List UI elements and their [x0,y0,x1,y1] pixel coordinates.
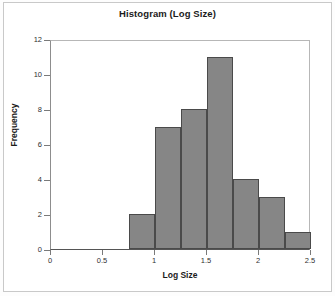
y-axis-title: Frequency [9,85,19,165]
x-axis-tick [310,250,311,255]
histogram-bar [207,57,233,250]
y-axis-tick-label: 2 [16,210,42,219]
y-axis-tick-label: 6 [16,140,42,149]
x-axis-tick-label: 0.5 [87,256,117,265]
chart-title: Histogram (Log Size) [0,8,335,19]
y-axis-tick [44,110,50,111]
x-axis-tick [154,250,155,255]
y-axis-tick [44,215,50,216]
histogram-bar [259,197,285,250]
y-axis-tick-label: 10 [16,70,42,79]
y-axis-tick-label: 4 [16,175,42,184]
bars-layer [51,41,309,249]
histogram-bar [129,214,155,249]
y-axis-tick-label: 0 [16,245,42,254]
x-axis-tick-label: 0 [35,256,65,265]
x-axis-title: Log Size [50,270,310,280]
histogram-bar [233,179,259,249]
histogram-bar [181,109,207,249]
x-axis-tick-label: 1 [139,256,169,265]
x-axis-tick-label: 1.5 [191,256,221,265]
histogram-bar [155,127,181,250]
y-axis-tick [44,75,50,76]
y-axis-tick [44,145,50,146]
plot-area [50,40,310,250]
x-axis-tick-label: 2.5 [295,256,325,265]
x-axis-tick [50,250,51,255]
y-axis-tick-label: 12 [16,35,42,44]
x-axis-tick-label: 2 [243,256,273,265]
y-axis-tick-label: 8 [16,105,42,114]
y-axis-tick [44,40,50,41]
y-axis-tick [44,180,50,181]
x-axis-tick [102,250,103,255]
x-axis-tick [258,250,259,255]
x-axis-tick [206,250,207,255]
histogram-screenshot: Histogram (Log Size) 024681012 00.511.52… [0,0,335,296]
histogram-bar [285,232,311,250]
